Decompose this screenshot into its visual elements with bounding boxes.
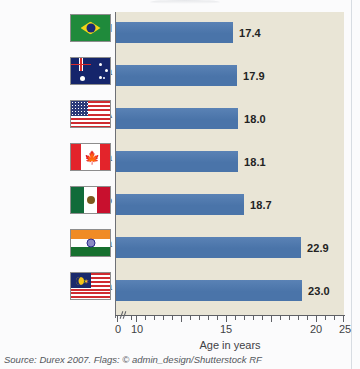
page-edge-rule	[351, 0, 352, 369]
axis-break-icon	[120, 311, 127, 319]
mexico-red-band	[97, 187, 110, 213]
x-tick-label-25: 25	[339, 323, 351, 335]
category-mexico: Mexico	[0, 186, 112, 230]
flag-brazil-icon	[70, 14, 111, 42]
bar-mexico	[116, 194, 244, 215]
flag-mexico-icon	[70, 186, 111, 214]
canada-right-band	[100, 144, 110, 170]
flag-india-icon	[70, 229, 111, 257]
australia-star	[99, 63, 102, 66]
flag-canada-icon: 🍁	[70, 143, 111, 171]
x-axis-title: Age in years	[116, 339, 344, 351]
x-tick	[190, 316, 191, 320]
bar-value-australia: 17.9	[243, 70, 265, 82]
bar-malaysia	[116, 280, 302, 301]
x-tick	[181, 316, 182, 322]
x-tick	[208, 316, 209, 320]
scan-artifact-top	[150, 0, 220, 4]
x-tick	[163, 316, 164, 320]
category-usa: USA	[0, 100, 112, 144]
x-tick	[136, 316, 137, 322]
malaysia-star: ✶	[83, 278, 89, 285]
mexico-coat-of-arms	[87, 196, 95, 204]
bar-india	[116, 237, 301, 258]
bar-value-india: 22.9	[307, 242, 329, 254]
canada-left-band	[71, 144, 81, 170]
x-tick	[262, 316, 263, 320]
category-india: India	[0, 229, 112, 273]
australia-union-jack	[71, 58, 91, 71]
x-tick	[298, 316, 299, 320]
x-tick	[253, 316, 254, 320]
x-tick	[172, 316, 173, 320]
australia-star	[99, 76, 102, 79]
x-tick-label-0: 0	[115, 323, 121, 335]
x-tick	[244, 316, 245, 320]
mexico-green-band	[71, 187, 84, 213]
plot-area	[116, 12, 344, 315]
x-tick	[316, 316, 317, 322]
x-tick	[280, 316, 281, 320]
bar-australia	[116, 65, 237, 86]
bar-value-canada: 18.1	[244, 156, 266, 168]
bar-value-malaysia: 23.0	[308, 285, 330, 297]
x-tick	[117, 316, 118, 322]
brazil-globe	[86, 24, 95, 33]
india-saffron-band	[71, 230, 110, 239]
bar-value-mexico: 18.7	[250, 199, 272, 211]
x-tick	[271, 316, 272, 322]
bar-value-usa: 18.0	[244, 113, 266, 125]
bar-usa	[116, 108, 238, 129]
x-tick	[289, 316, 290, 320]
flag-usa-icon	[70, 100, 111, 128]
x-tick	[131, 316, 132, 320]
x-tick	[334, 316, 335, 320]
x-tick-label-15: 15	[220, 323, 232, 335]
x-axis-line	[115, 315, 345, 316]
canada-maple-leaf: 🍁	[84, 151, 97, 164]
x-tick	[226, 316, 227, 322]
x-tick	[307, 316, 308, 320]
flag-australia-icon	[70, 57, 111, 85]
category-australia: Australia	[0, 57, 112, 101]
x-tick	[325, 316, 326, 320]
australia-commonwealth-star	[80, 76, 85, 81]
x-tick-label-10: 10	[131, 323, 143, 335]
x-tick	[217, 316, 218, 320]
usa-canton	[71, 101, 88, 116]
x-tick	[235, 316, 236, 320]
x-tick	[154, 316, 155, 320]
bar-value-brazil: 17.4	[239, 27, 261, 39]
x-tick	[145, 316, 146, 320]
figure-bar-chart: Brazil Australia USA Canada 🍁 Me	[0, 0, 360, 369]
australia-star	[103, 77, 105, 79]
india-ashoka-chakra	[86, 239, 95, 248]
category-brazil: Brazil	[0, 14, 112, 58]
category-canada: Canada 🍁	[0, 143, 112, 187]
x-tick	[343, 316, 344, 322]
x-tick-label-20: 20	[310, 323, 322, 335]
source-text: Source: Durex 2007. Flags: © admin_desig…	[4, 354, 262, 365]
australia-star	[105, 69, 108, 72]
india-green-band	[71, 247, 110, 256]
flag-malaysia-icon: ✶	[70, 272, 111, 300]
source-note: Source: Durex 2007. Flags: © admin_desig…	[4, 354, 262, 365]
category-malaysia: Malaysia ✶	[0, 272, 112, 316]
x-tick	[199, 316, 200, 320]
bar-brazil	[116, 22, 233, 43]
bar-canada	[116, 151, 238, 172]
